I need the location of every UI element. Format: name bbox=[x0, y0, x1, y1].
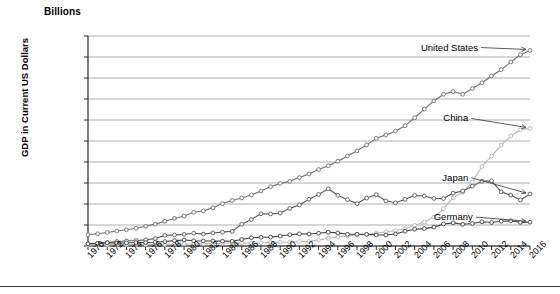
data-point bbox=[509, 60, 513, 64]
data-point bbox=[432, 197, 436, 201]
data-point bbox=[480, 165, 484, 169]
data-point bbox=[355, 232, 359, 236]
gdp-line-chart: Billions GDP in Current US Dollars $0$2,… bbox=[0, 0, 560, 294]
data-point bbox=[470, 184, 474, 188]
leader-line bbox=[471, 178, 526, 193]
data-point bbox=[153, 222, 157, 226]
data-point bbox=[451, 196, 455, 200]
y-axis-ticks: $0$2,000$4,000$6,000$8,000$10,000$12,000… bbox=[0, 0, 88, 294]
data-point bbox=[307, 172, 311, 176]
data-point bbox=[269, 212, 273, 216]
data-point bbox=[317, 238, 321, 242]
leader-arrowhead bbox=[521, 193, 526, 194]
data-point bbox=[211, 206, 215, 210]
data-point bbox=[182, 238, 186, 242]
data-point bbox=[470, 87, 474, 91]
data-point bbox=[346, 198, 350, 202]
data-point bbox=[365, 232, 369, 236]
data-point bbox=[240, 222, 244, 226]
data-point bbox=[480, 81, 484, 85]
data-point bbox=[499, 190, 503, 194]
data-point bbox=[355, 149, 359, 153]
data-point bbox=[173, 233, 177, 237]
data-point bbox=[105, 231, 109, 235]
data-point bbox=[201, 209, 205, 213]
data-point bbox=[432, 99, 436, 103]
data-point bbox=[201, 239, 205, 243]
data-point bbox=[288, 233, 292, 237]
series-label-japan: Japan bbox=[442, 172, 468, 183]
data-point bbox=[163, 233, 167, 237]
data-point bbox=[230, 229, 234, 233]
data-point bbox=[451, 90, 455, 94]
data-point bbox=[240, 196, 244, 200]
data-point bbox=[278, 234, 282, 238]
data-point bbox=[240, 238, 244, 242]
data-point bbox=[509, 134, 513, 138]
data-point bbox=[461, 189, 465, 193]
data-point bbox=[374, 136, 378, 140]
data-point bbox=[384, 233, 388, 237]
data-point bbox=[297, 176, 301, 180]
data-point bbox=[163, 219, 167, 223]
data-point bbox=[346, 154, 350, 158]
data-point bbox=[125, 241, 129, 245]
data-point bbox=[259, 235, 263, 239]
data-point bbox=[490, 154, 494, 158]
data-point bbox=[422, 227, 426, 231]
data-point bbox=[422, 107, 426, 111]
data-point bbox=[365, 143, 369, 147]
series-label-germany: Germany bbox=[434, 211, 473, 222]
data-point bbox=[297, 203, 301, 207]
data-point bbox=[249, 218, 253, 222]
data-point bbox=[336, 159, 340, 163]
data-point bbox=[297, 232, 301, 236]
data-point bbox=[528, 49, 532, 53]
data-point bbox=[490, 221, 494, 225]
data-point bbox=[461, 222, 465, 226]
data-point bbox=[144, 224, 148, 228]
data-point bbox=[413, 116, 417, 120]
data-point bbox=[384, 133, 388, 137]
data-point bbox=[365, 196, 369, 200]
data-point bbox=[470, 222, 474, 226]
data-point bbox=[490, 179, 494, 183]
data-point bbox=[336, 193, 340, 197]
bottom-divider bbox=[0, 286, 560, 287]
data-point bbox=[278, 181, 282, 185]
data-point bbox=[490, 74, 494, 78]
data-point bbox=[144, 241, 148, 245]
data-point bbox=[259, 241, 263, 245]
data-point bbox=[461, 92, 465, 96]
data-point bbox=[442, 207, 446, 211]
data-point bbox=[336, 235, 340, 239]
data-point bbox=[451, 191, 455, 195]
data-point bbox=[326, 164, 330, 168]
data-point bbox=[134, 226, 138, 230]
data-point bbox=[173, 217, 177, 221]
data-point bbox=[105, 241, 109, 245]
data-point bbox=[413, 224, 417, 228]
data-point bbox=[403, 197, 407, 201]
data-point bbox=[288, 206, 292, 210]
series-line-china bbox=[88, 128, 530, 245]
data-point bbox=[182, 232, 186, 236]
leader-line bbox=[481, 48, 526, 50]
data-point bbox=[259, 212, 263, 216]
data-point bbox=[182, 214, 186, 218]
data-point bbox=[499, 219, 503, 223]
data-point bbox=[221, 202, 225, 206]
data-point bbox=[326, 187, 330, 191]
data-point bbox=[422, 220, 426, 224]
data-point bbox=[403, 124, 407, 128]
data-point bbox=[355, 202, 359, 206]
data-point bbox=[499, 143, 503, 147]
data-point bbox=[394, 201, 398, 205]
data-point bbox=[442, 92, 446, 96]
data-point bbox=[403, 229, 407, 233]
data-point bbox=[413, 194, 417, 198]
data-point bbox=[442, 222, 446, 226]
data-point bbox=[221, 230, 225, 234]
data-point bbox=[394, 232, 398, 236]
data-point bbox=[278, 211, 282, 215]
